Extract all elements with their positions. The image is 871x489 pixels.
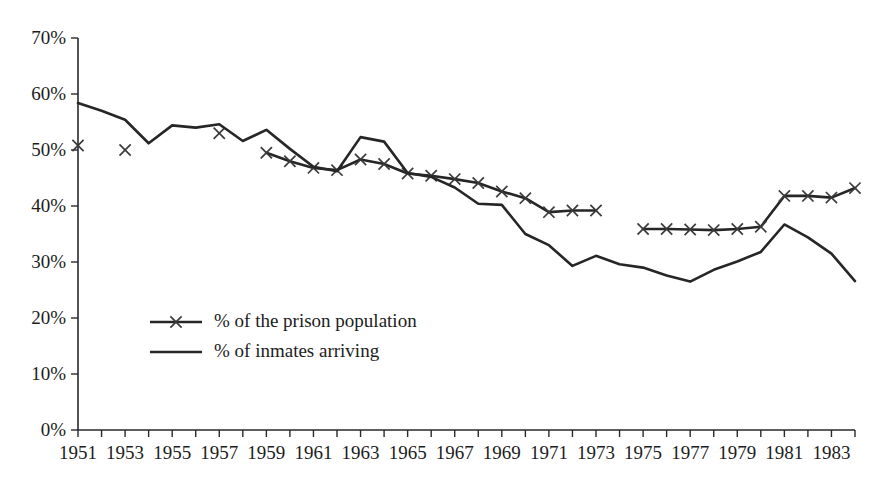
y-tick-label: 30% bbox=[31, 251, 66, 272]
legend-label: % of the prison population bbox=[214, 310, 417, 331]
data-point-marker bbox=[849, 182, 860, 193]
y-tick-label: 10% bbox=[31, 363, 66, 384]
x-tick-label: 1971 bbox=[530, 442, 568, 463]
y-tick-label: 0% bbox=[41, 419, 67, 440]
x-tick-label: 1961 bbox=[294, 442, 332, 463]
y-tick-label: 60% bbox=[31, 83, 66, 104]
axis-layer bbox=[78, 38, 855, 430]
legend-label: % of inmates arriving bbox=[214, 340, 380, 361]
series-path bbox=[643, 188, 855, 230]
y-tick-label: 70% bbox=[31, 27, 66, 48]
tick-marks bbox=[71, 38, 855, 437]
y-axis-tick-labels: 0%10%20%30%40%50%60%70% bbox=[31, 27, 66, 440]
x-tick-label: 1969 bbox=[483, 442, 521, 463]
data-point-marker bbox=[214, 128, 225, 139]
legend-item: % of inmates arriving bbox=[150, 340, 380, 361]
line-chart: 0%10%20%30%40%50%60%70% 1951195319551957… bbox=[0, 0, 871, 489]
x-tick-label: 1983 bbox=[812, 442, 850, 463]
x-tick-label: 1977 bbox=[671, 442, 709, 463]
x-tick-label: 1955 bbox=[153, 442, 191, 463]
y-tick-label: 20% bbox=[31, 307, 66, 328]
chart-container: 0%10%20%30%40%50%60%70% 1951195319551957… bbox=[0, 0, 871, 489]
x-tick-label: 1981 bbox=[765, 442, 803, 463]
y-tick-label: 40% bbox=[31, 195, 66, 216]
x-axis-tick-labels: 1951195319551957195919611963196519671969… bbox=[59, 442, 850, 463]
series-path bbox=[78, 103, 855, 282]
series-1 bbox=[72, 128, 860, 236]
x-tick-label: 1965 bbox=[389, 442, 427, 463]
y-tick-label: 50% bbox=[31, 139, 66, 160]
chart-legend: % of the prison population% of inmates a… bbox=[150, 310, 417, 361]
x-tick-label: 1967 bbox=[436, 442, 474, 463]
x-tick-label: 1957 bbox=[200, 442, 238, 463]
x-tick-label: 1953 bbox=[106, 442, 144, 463]
data-series-layer bbox=[72, 103, 860, 282]
axis-spine bbox=[78, 38, 855, 430]
series-path bbox=[266, 153, 596, 212]
x-tick-label: 1975 bbox=[624, 442, 662, 463]
data-point-marker bbox=[119, 144, 130, 155]
x-tick-label: 1951 bbox=[59, 442, 97, 463]
legend-item: % of the prison population bbox=[150, 310, 417, 331]
x-tick-label: 1959 bbox=[247, 442, 285, 463]
x-tick-label: 1973 bbox=[577, 442, 615, 463]
x-tick-label: 1963 bbox=[342, 442, 380, 463]
series-2 bbox=[78, 103, 855, 282]
data-point-marker bbox=[261, 147, 272, 158]
x-tick-label: 1979 bbox=[718, 442, 756, 463]
